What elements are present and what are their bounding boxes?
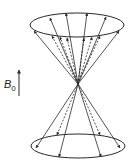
lower-spin-vector: [59, 84, 78, 157]
upper-spin-dashed-vector: [60, 37, 78, 84]
lower-spin-vector: [36, 84, 78, 148]
lower-spin-dashed-vector: [78, 84, 100, 135]
precession-cones-diagram: B0: [0, 0, 135, 165]
upper-spin-vector: [34, 31, 78, 84]
lower-spin-dashed-vector: [57, 84, 78, 135]
lower-spin-vector: [78, 84, 101, 157]
upper-cone-rim: [30, 13, 124, 37]
field-label: B0: [4, 78, 16, 93]
upper-spin-dashed-vector: [78, 37, 92, 84]
lower-spin-vector: [78, 84, 120, 148]
lower-cone-rim: [31, 134, 125, 158]
